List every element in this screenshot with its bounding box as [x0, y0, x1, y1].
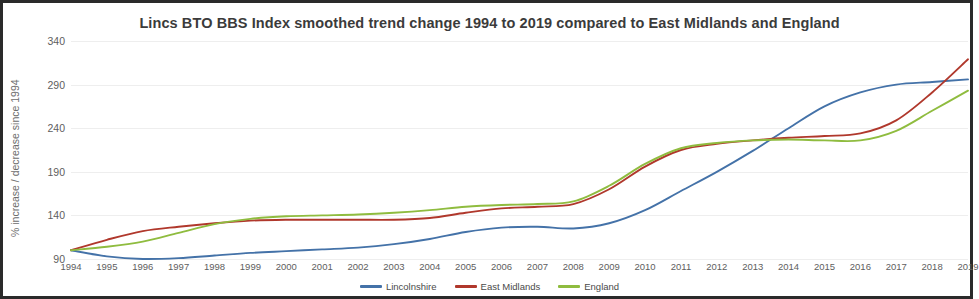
x-axis-tick-label: 1997 — [168, 261, 189, 272]
series-line-east-midlands — [71, 59, 968, 250]
plot-area: 90140190240290340 — [71, 41, 968, 259]
x-axis-tick-label: 2013 — [742, 261, 763, 272]
chart-title: Lincs BTO BBS Index smoothed trend chang… — [3, 15, 976, 31]
legend-item-lincolnshire[interactable]: Lincolnshire — [360, 281, 437, 292]
x-axis-tick-label: 2007 — [527, 261, 548, 272]
x-axis-tick-label: 2011 — [671, 261, 691, 272]
x-axis-tick-label: 2001 — [312, 261, 333, 272]
x-axis-tick-label: 1999 — [240, 261, 261, 272]
x-axis-tick-label: 2012 — [706, 261, 727, 272]
series-lines — [71, 41, 968, 259]
x-axis-tick-label: 2017 — [886, 261, 907, 272]
x-axis-tick-label: 2002 — [347, 261, 368, 272]
x-axis-tick-label: 2018 — [922, 261, 943, 272]
x-axis-tick-label: 1995 — [96, 261, 117, 272]
x-axis-tick-labels: 1994199519961997199819992000200120022003… — [71, 261, 968, 275]
y-axis-tick-label: 290 — [47, 79, 65, 91]
y-axis-tick-label: 140 — [47, 209, 65, 221]
x-axis-tick-label: 2000 — [276, 261, 297, 272]
series-line-lincolnshire — [71, 79, 968, 259]
x-axis-tick-label: 1998 — [204, 261, 225, 272]
legend-label: England — [584, 281, 619, 292]
legend-item-england[interactable]: England — [558, 281, 619, 292]
y-axis-title: % increase / decrease since 1994 — [9, 63, 25, 253]
x-axis-tick-label: 2015 — [814, 261, 835, 272]
gridline: 90 — [71, 259, 968, 260]
x-axis-tick-label: 1994 — [60, 261, 81, 272]
x-axis-tick-label: 2003 — [383, 261, 404, 272]
x-axis-tick-label: 2008 — [563, 261, 584, 272]
x-axis-tick-label: 2006 — [491, 261, 512, 272]
x-axis-tick-label: 2019 — [957, 261, 978, 272]
x-axis-tick-label: 2004 — [419, 261, 440, 272]
legend-label: Lincolnshire — [386, 281, 437, 292]
legend-color-swatch — [455, 285, 477, 287]
chart-legend: LincolnshireEast MidlandsEngland — [3, 281, 976, 292]
legend-label: East Midlands — [481, 281, 541, 292]
x-axis-tick-label: 2014 — [778, 261, 799, 272]
x-axis-tick-label: 1996 — [132, 261, 153, 272]
legend-item-east-midlands[interactable]: East Midlands — [455, 281, 541, 292]
x-axis-tick-label: 2010 — [635, 261, 656, 272]
x-axis-tick-label: 2009 — [599, 261, 620, 272]
x-axis-tick-label: 2016 — [850, 261, 871, 272]
x-axis-tick-label: 2005 — [455, 261, 476, 272]
y-axis-tick-label: 340 — [47, 35, 65, 47]
legend-color-swatch — [360, 285, 382, 287]
y-axis-tick-label: 190 — [47, 166, 65, 178]
y-axis-tick-label: 240 — [47, 122, 65, 134]
legend-color-swatch — [558, 285, 580, 287]
